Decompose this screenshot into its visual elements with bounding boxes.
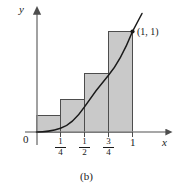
x-tick-label-three-quarter: 3 4 xyxy=(103,137,114,157)
fraction-denominator: 4 xyxy=(55,148,66,157)
point-marker-1-1 xyxy=(130,29,134,33)
fraction-numerator: 3 xyxy=(103,137,114,146)
riemann-sum-figure: y x 0 1 4 1 2 3 4 1 (1, 1) (b) xyxy=(0,0,178,193)
origin-label: 0 xyxy=(23,134,29,145)
x-tick-label-quarter: 1 4 xyxy=(55,137,66,157)
x-tick-label-one: 1 xyxy=(130,137,136,148)
fraction-denominator: 2 xyxy=(79,148,90,157)
riemann-rectangles xyxy=(37,32,133,133)
riemann-rect-4 xyxy=(109,32,133,133)
x-axis-label: x xyxy=(162,137,167,148)
fraction-numerator: 1 xyxy=(79,137,90,146)
figure-caption: (b) xyxy=(80,171,93,182)
fraction-denominator: 4 xyxy=(103,148,114,157)
y-axis-label: y xyxy=(19,4,24,15)
x-tick-label-half: 1 2 xyxy=(79,137,90,157)
riemann-rect-3 xyxy=(85,74,109,133)
point-label-1-1: (1, 1) xyxy=(137,27,159,37)
fraction-numerator: 1 xyxy=(55,137,66,146)
